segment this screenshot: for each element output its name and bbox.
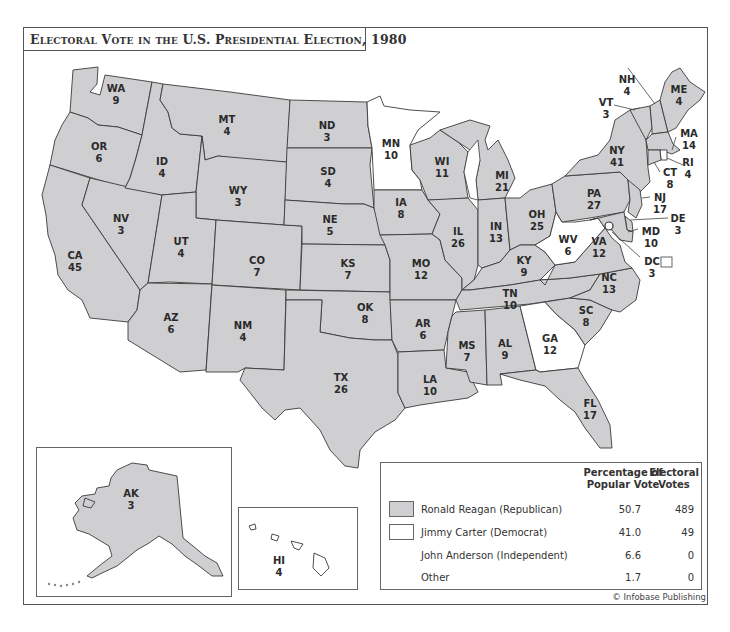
- aleutian-dot: [66, 584, 68, 586]
- dc-star-icon: [605, 222, 613, 230]
- label-NC: NC13: [601, 272, 617, 296]
- label-GA: GA12: [542, 333, 558, 357]
- legend-ev: 49: [649, 527, 694, 538]
- label-TX: TX26: [334, 372, 349, 396]
- label-NE: NE5: [322, 214, 337, 238]
- label-WY: WY3: [229, 185, 247, 209]
- label-LA: LA10: [423, 374, 437, 398]
- aleutian-dot: [48, 583, 50, 585]
- swatch-democrat: [389, 524, 414, 540]
- aleutian-dot: [60, 585, 62, 587]
- label-NY: NY41: [609, 145, 625, 169]
- label-ME: ME4: [671, 84, 688, 108]
- credit: © Infobase Publishing: [612, 592, 706, 602]
- label-WA: WA9: [107, 83, 125, 107]
- label-AZ: AZ6: [164, 312, 179, 336]
- label-MD: MD10: [642, 226, 660, 250]
- label-UT: UT4: [174, 236, 189, 260]
- swatch-republican: [389, 501, 414, 517]
- label-DE: DE3: [670, 213, 685, 237]
- label-HI: HI4: [273, 555, 285, 579]
- aleutian-dot: [72, 583, 74, 585]
- legend-row-other: Other 1.7 0: [381, 569, 701, 589]
- leader-ct: [654, 162, 660, 172]
- legend-row-carter: Jimmy Carter (Democrat) 41.0 49: [381, 524, 701, 544]
- legend-ev: 0: [649, 572, 694, 583]
- label-NJ: NJ17: [653, 192, 667, 216]
- map-title: Electoral Vote in the U.S. Presidential …: [30, 32, 407, 47]
- label-ND: ND3: [319, 120, 336, 144]
- legend: Percentage ofPopular Vote ElectoralVotes…: [380, 462, 702, 590]
- label-NV: NV3: [113, 213, 129, 237]
- leader-vt: [614, 105, 635, 110]
- legend-name: Jimmy Carter (Democrat): [421, 527, 547, 538]
- legend-pct: 41.0: [591, 527, 641, 538]
- label-OR: OR6: [91, 141, 107, 165]
- label-MS: MS7: [458, 340, 475, 364]
- label-AK: AK3: [123, 488, 139, 512]
- label-NH: NH4: [619, 74, 636, 98]
- title-box: Electoral Vote in the U.S. Presidential …: [23, 27, 366, 51]
- island-big-island: [313, 553, 329, 576]
- label-KS: KS7: [341, 258, 356, 282]
- aleutian-dot: [54, 584, 56, 586]
- label-MN: MN10: [382, 138, 400, 162]
- label-NM: NM4: [234, 320, 252, 344]
- label-IN: IN13: [489, 221, 503, 245]
- legend-ev: 489: [649, 504, 694, 515]
- leader-nj: [642, 197, 650, 198]
- state-AK[interactable]: [73, 463, 223, 578]
- label-MA: MA14: [680, 128, 698, 152]
- label-SD: SD4: [320, 166, 336, 190]
- label-KY: KY9: [517, 255, 532, 279]
- label-IL: IL26: [451, 226, 465, 250]
- label-MO: MO12: [412, 258, 430, 282]
- alaska-map: [37, 448, 233, 598]
- aleutian-dot: [78, 581, 80, 583]
- label-PA: PA27: [587, 188, 601, 212]
- label-CT: CT8: [663, 167, 677, 191]
- label-MI: MI21: [495, 170, 509, 194]
- label-ID: ID4: [156, 156, 168, 180]
- label-VA: VA12: [592, 236, 607, 260]
- hawaii-map: [239, 508, 359, 591]
- legend-header-ev: ElectoralVotes: [645, 467, 703, 491]
- label-SC: SC8: [579, 305, 594, 329]
- legend-name: John Anderson (Independent): [421, 550, 568, 561]
- legend-pct: 1.7: [591, 572, 641, 583]
- leader-ri: [667, 158, 683, 165]
- label-CA: CA45: [67, 250, 82, 274]
- legend-name: Other: [421, 572, 449, 583]
- label-OK: OK8: [357, 302, 373, 326]
- label-WV: WV6: [559, 234, 578, 258]
- label-WI: WI11: [435, 156, 450, 180]
- label-IA: IA8: [395, 197, 406, 221]
- label-OH: OH25: [529, 209, 546, 233]
- dc-swatch: [661, 257, 672, 267]
- alaska-inset: AK3: [36, 447, 232, 597]
- legend-row-anderson: John Anderson (Independent) 6.6 0: [381, 547, 701, 567]
- label-CO: CO7: [249, 255, 265, 279]
- island-kauai: [249, 524, 256, 530]
- label-FL: FL17: [583, 398, 597, 422]
- label-RI: RI4: [682, 157, 693, 181]
- label-DC: DC3: [644, 256, 660, 280]
- legend-row-reagan: Ronald Reagan (Republican) 50.7 489: [381, 501, 701, 521]
- label-MT: MT4: [219, 114, 236, 138]
- label-VT: VT3: [599, 97, 614, 121]
- legend-ev: 0: [649, 550, 694, 561]
- label-AL: AL9: [498, 338, 512, 362]
- legend-pct: 50.7: [591, 504, 641, 515]
- label-AR: AR6: [415, 318, 430, 342]
- label-TN: TN10: [502, 288, 517, 312]
- legend-name: Ronald Reagan (Republican): [421, 504, 562, 515]
- island-oahu: [271, 534, 279, 541]
- legend-pct: 6.6: [591, 550, 641, 561]
- hawaii-inset: HI4: [238, 507, 358, 590]
- island-maui: [291, 541, 303, 550]
